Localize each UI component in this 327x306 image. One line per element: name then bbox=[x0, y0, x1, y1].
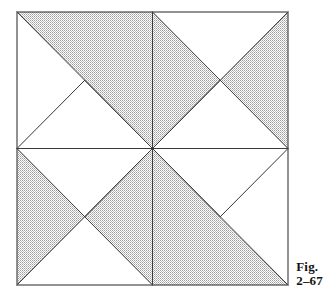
figure-caption-line-1: Fig. bbox=[296, 260, 323, 275]
construction-line-group bbox=[17, 12, 288, 285]
figure-caption-line-2: 2–67 bbox=[296, 274, 323, 289]
pinwheel-figure-graphic bbox=[0, 0, 327, 306]
figure-caption: Fig. 2–67 bbox=[296, 260, 323, 289]
figure-container: Fig. 2–67 bbox=[0, 0, 327, 306]
